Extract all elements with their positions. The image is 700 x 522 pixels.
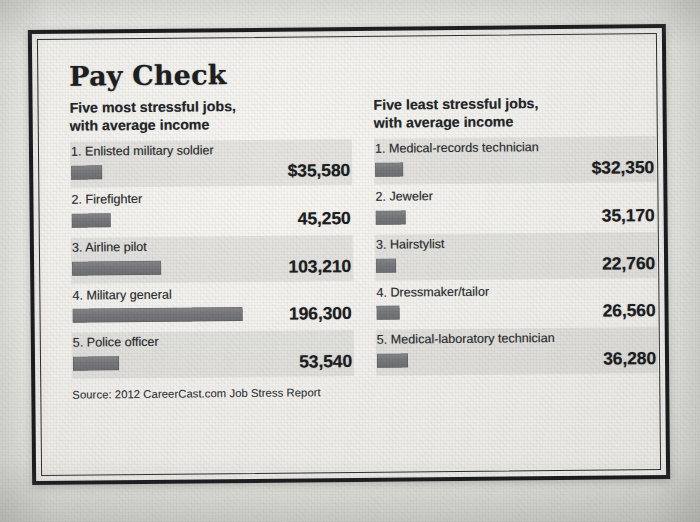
list-item: 3. Hairstylist 22,760 [375,232,657,280]
infographic-content: Pay Check Five most stressful jobs, with… [39,35,659,474]
frame-outer-rule: Pay Check Five most stressful jobs, with… [28,24,670,485]
value-label: $35,580 [288,160,351,181]
value-label: 196,300 [289,303,352,324]
value-bar [376,258,396,272]
value-bar [376,306,399,320]
list-item: 1. Enlisted military soldier $35,580 [70,139,352,187]
row-body: 36,280 [376,348,658,372]
row-body: $35,580 [70,160,352,184]
job-label: 2. Firefighter [71,190,352,208]
list-item: 5. Police officer 53,540 [72,330,354,378]
job-label: 4. Military general [72,286,353,304]
source-note: Source: 2012 CareerCast.com Job Stress R… [72,383,636,400]
value-bar [71,165,102,179]
clipping-sheet: Pay Check Five most stressful jobs, with… [39,35,659,474]
value-label: 26,560 [603,300,656,321]
value-label: 35,170 [602,205,655,226]
value-bar [72,213,111,227]
list-item: 4. Military general 196,300 [71,283,353,331]
job-label: 5. Medical-laboratory technician [377,330,658,348]
columns-wrapper: Five most stressful jobs, with average i… [69,93,636,380]
row-body: 103,210 [71,256,353,280]
value-label: $32,350 [592,157,655,178]
column-most-stressful: Five most stressful jobs, with average i… [69,96,354,381]
job-label: 4. Dressmaker/tailor [376,283,657,301]
list-item: 5. Medical-laboratory technician 36,280 [376,327,658,375]
job-label: 3. Hairstylist [376,235,657,253]
list-item: 2. Jeweler 35,170 [374,184,656,232]
job-label: 1. Enlisted military soldier [71,142,352,160]
value-label: 36,280 [603,348,656,369]
list-item: 4. Dressmaker/tailor 26,560 [375,280,657,328]
value-label: 53,540 [299,351,352,372]
row-body: 26,560 [375,300,657,324]
newspaper-clipping: Pay Check Five most stressful jobs, with… [28,24,670,485]
value-bar [72,260,162,275]
row-body: $32,350 [374,157,656,181]
list-item: 3. Airline pilot 103,210 [71,235,353,283]
value-bar [375,163,403,177]
row-body: 196,300 [71,303,353,327]
value-bar [377,353,409,367]
job-label: 5. Police officer [73,333,354,351]
value-bar [376,210,407,224]
column-heading: Five least stressful jobs, with average … [373,93,655,132]
job-label: 1. Medical-records technician [375,139,656,157]
list-item: 2. Firefighter 45,250 [70,187,352,235]
value-label: 45,250 [298,208,351,229]
page-title: Pay Check [69,57,633,89]
value-bar [73,356,119,370]
value-label: 22,760 [602,253,655,274]
list-item: 1. Medical-records technician $32,350 [374,136,656,184]
row-body: 53,540 [72,351,354,375]
job-label: 2. Jeweler [375,187,656,205]
value-bar [73,307,243,323]
column-heading: Five most stressful jobs, with average i… [69,96,351,135]
row-body: 22,760 [375,253,657,277]
row-body: 45,250 [71,208,353,232]
value-label: 103,210 [288,256,351,277]
column-least-stressful: Five least stressful jobs, with average … [373,93,658,378]
photo-background: Pay Check Five most stressful jobs, with… [0,0,700,522]
row-body: 35,170 [375,205,657,229]
job-label: 3. Airline pilot [72,238,353,256]
